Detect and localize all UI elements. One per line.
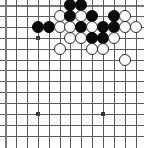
white-stone-c12-r2 [130, 21, 142, 33]
grid-line-vertical-2 [27, 0, 28, 148]
grid-line-horizontal-12 [0, 136, 144, 137]
grid-line-horizontal-10 [0, 114, 144, 115]
white-stone-c5-r4 [54, 43, 66, 55]
white-stone-c9-r4 [97, 43, 109, 55]
grid-line-horizontal-11 [0, 125, 144, 126]
grid-line-horizontal-4 [0, 49, 144, 50]
star-point-2 [101, 112, 105, 116]
grid-line-vertical-1 [16, 0, 17, 148]
go-board-diagram [0, 0, 144, 148]
star-point-1 [36, 112, 40, 116]
white-stone-c11-r5 [119, 54, 131, 66]
grid-line-horizontal-8 [0, 92, 144, 93]
white-stone-c10-r3 [108, 32, 120, 44]
grid-line-vertical-0 [5, 0, 7, 148]
grid-line-horizontal-7 [0, 81, 144, 82]
grid-line-horizontal-9 [0, 103, 144, 104]
grid-line-horizontal-6 [0, 70, 144, 71]
star-point-0 [36, 36, 40, 40]
